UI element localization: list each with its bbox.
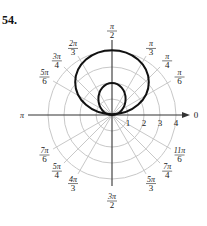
angle-label: 0: [194, 110, 199, 120]
angle-label: π4: [162, 52, 172, 70]
svg-text:π: π: [20, 111, 25, 120]
svg-text:6: 6: [177, 76, 182, 86]
radial-tick-label: 4: [174, 118, 179, 128]
angle-label: 4π3: [68, 175, 78, 193]
angle-label: π6: [175, 68, 185, 86]
angle-label: π3: [146, 39, 156, 57]
angle-label: π: [20, 111, 25, 120]
svg-text:3: 3: [149, 183, 154, 193]
svg-text:4: 4: [55, 60, 60, 70]
angle-label: 7π4: [162, 162, 172, 180]
svg-text:6: 6: [42, 154, 47, 164]
angle-label: 3π4: [52, 52, 62, 70]
svg-text:2: 2: [110, 200, 115, 210]
angle-label: 11π6: [174, 146, 186, 164]
angle-label: 5π4: [52, 162, 62, 180]
angle-label: 5π6: [39, 68, 49, 86]
svg-text:3: 3: [71, 183, 76, 193]
svg-text:6: 6: [42, 76, 47, 86]
radial-tick-labels: 1234: [126, 118, 179, 128]
svg-text:3: 3: [71, 47, 76, 57]
radial-tick-label: 3: [158, 118, 163, 128]
axis-arrow-icon: [182, 112, 190, 118]
svg-text:4: 4: [165, 60, 170, 70]
svg-text:6: 6: [177, 154, 182, 164]
angle-label: 2π3: [68, 39, 78, 57]
angle-label: π2: [107, 22, 117, 40]
radial-tick-label: 2: [142, 118, 147, 128]
svg-text:4: 4: [55, 170, 60, 180]
svg-text:0: 0: [194, 110, 199, 120]
angle-label: 5π3: [146, 175, 156, 193]
polar-plot: 1234 0π6π4π3π22π33π45π6π7π65π44π33π25π37…: [0, 0, 207, 226]
svg-text:4: 4: [165, 170, 170, 180]
radial-tick-label: 1: [126, 118, 131, 128]
svg-text:2: 2: [110, 30, 115, 40]
angle-label: 7π6: [39, 146, 49, 164]
svg-text:3: 3: [149, 47, 154, 57]
angle-label: 3π2: [107, 192, 117, 210]
